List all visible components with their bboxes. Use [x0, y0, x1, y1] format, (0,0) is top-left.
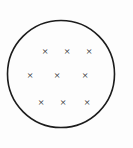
x-mark: ×: [60, 97, 66, 108]
x-mark: ×: [38, 97, 44, 108]
x-mark: ×: [42, 46, 48, 57]
x-mark: ×: [82, 70, 88, 81]
x-mark: ×: [54, 70, 60, 81]
x-mark: ×: [86, 46, 92, 57]
figure-canvas: ×××××××××: [0, 0, 133, 148]
circle-outline: [8, 21, 115, 128]
figure-svg: [0, 0, 133, 148]
x-mark: ×: [84, 97, 90, 108]
x-mark: ×: [27, 70, 33, 81]
x-mark: ×: [64, 46, 70, 57]
